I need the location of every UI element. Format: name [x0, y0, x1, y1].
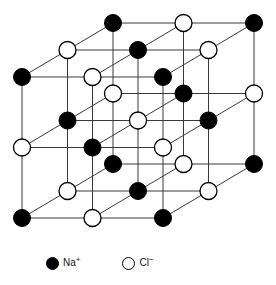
- chloride-ion: [59, 183, 76, 200]
- legend: Na+ Cl−: [0, 248, 276, 278]
- sodium-ion: [246, 15, 263, 32]
- sodium-ion: [155, 69, 172, 86]
- legend-label-chloride: Cl−: [139, 258, 153, 268]
- chloride-ion: [59, 42, 76, 59]
- nacl-lattice-figure: Na+ Cl−: [0, 0, 276, 285]
- chloride-ion: [105, 85, 122, 102]
- chloride-ion: [155, 139, 172, 156]
- chloride-ion: [200, 183, 217, 200]
- chloride-ion: [175, 156, 192, 173]
- chloride-ion: [14, 139, 31, 156]
- chloride-ion-icon: [122, 257, 135, 270]
- chloride-ion: [84, 210, 101, 227]
- sodium-ion: [246, 156, 263, 173]
- sodium-ion-icon: [46, 257, 59, 270]
- legend-item-sodium: Na+: [46, 257, 80, 270]
- sodium-ion: [105, 15, 122, 32]
- chloride-ion: [200, 42, 217, 59]
- sodium-ion: [105, 156, 122, 173]
- sodium-ion: [130, 183, 147, 200]
- chloride-ion: [84, 69, 101, 86]
- chloride-ion: [130, 112, 147, 129]
- sodium-ion: [175, 85, 192, 102]
- sodium-ion: [59, 112, 76, 129]
- ion-spheres: [14, 15, 263, 227]
- sodium-ion: [14, 69, 31, 86]
- sodium-ion: [84, 139, 101, 156]
- legend-label-sodium: Na+: [63, 258, 80, 268]
- sodium-ion: [14, 210, 31, 227]
- chloride-ion: [175, 15, 192, 32]
- sodium-ion: [200, 112, 217, 129]
- sodium-ion: [155, 210, 172, 227]
- chloride-ion: [246, 85, 263, 102]
- sodium-ion: [130, 42, 147, 59]
- lattice-diagram: [0, 0, 276, 285]
- legend-item-chloride: Cl−: [122, 257, 153, 270]
